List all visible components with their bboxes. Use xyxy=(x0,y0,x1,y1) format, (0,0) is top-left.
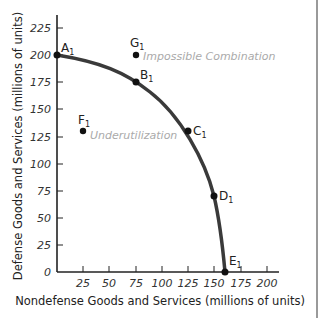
ppf-curve xyxy=(57,55,225,272)
point-d1 xyxy=(211,193,218,200)
x-tick-label: 125 xyxy=(178,277,199,290)
y-tick-label: 225 xyxy=(30,22,51,35)
x-tick-label: 200 xyxy=(257,277,278,290)
y-tick-label: 200 xyxy=(30,49,51,62)
label-b1: B1 xyxy=(140,68,153,84)
y-tick-labels: 0 25 50 75 100 125 150 175 200 225 xyxy=(30,22,51,279)
x-tick-label: 50 xyxy=(102,277,116,290)
y-tick-label: 75 xyxy=(37,185,51,198)
point-g1 xyxy=(133,52,139,58)
y-ticks xyxy=(57,28,63,245)
label-a1: A1 xyxy=(61,41,74,57)
x-tick-label: 175 xyxy=(231,277,252,290)
label-c1: C1 xyxy=(193,124,206,140)
y-axis-title: Defense Goods and Services (millions of … xyxy=(11,12,25,280)
x-tick-labels: 25 50 75 100 125 150 175 200 xyxy=(76,277,278,290)
point-b1 xyxy=(133,79,140,86)
x-tick-label: 25 xyxy=(76,277,90,290)
origin-label: 0 xyxy=(44,266,51,279)
point-a1 xyxy=(54,52,61,59)
ppf-chart: 0 25 50 75 100 125 150 175 200 225 25 50… xyxy=(0,0,319,318)
x-tick-label: 75 xyxy=(129,277,143,290)
x-tick-label: 150 xyxy=(204,277,225,290)
label-d1: D1 xyxy=(219,189,233,205)
impossible-combination-note: Impossible Combination xyxy=(143,50,275,63)
point-c1 xyxy=(185,128,192,135)
label-f1: F1 xyxy=(78,113,90,129)
label-e1: E1 xyxy=(229,254,242,270)
point-e1 xyxy=(222,269,229,276)
y-tick-label: 175 xyxy=(30,76,51,89)
x-tick-label: 100 xyxy=(152,277,173,290)
y-tick-label: 50 xyxy=(37,212,51,225)
y-tick-label: 125 xyxy=(30,131,51,144)
x-axis-title: Nondefense Goods and Services (millions … xyxy=(15,294,305,308)
y-tick-label: 150 xyxy=(30,103,51,116)
y-tick-label: 25 xyxy=(37,239,51,252)
y-tick-label: 100 xyxy=(30,158,51,171)
underutilization-note: Underutilization xyxy=(90,129,177,142)
